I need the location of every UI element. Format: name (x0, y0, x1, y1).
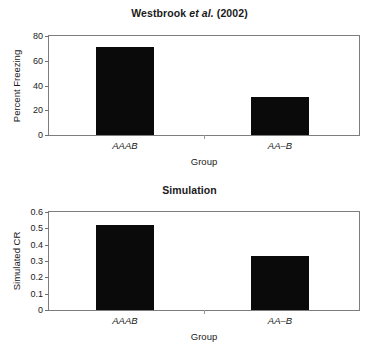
y-axis-tick-label: 0.1 (30, 289, 43, 298)
x-axis-center-tick (204, 310, 205, 314)
y-axis-tick (45, 310, 49, 311)
y-axis-tick-label: 20 (33, 106, 43, 115)
y-axis-tick-label: 0.2 (30, 273, 43, 282)
bar-aaab (96, 225, 153, 310)
panel-westbrook: Westbrook et al. (2002) Percent Freezing… (0, 0, 379, 176)
figure-container: Westbrook et al. (2002) Percent Freezing… (0, 0, 379, 353)
panel-title-simulation: Simulation (0, 184, 379, 197)
panel-title-etal: et al. (189, 7, 214, 19)
y-axis-tick-label: 0.6 (30, 208, 43, 217)
y-axis-tick (45, 228, 49, 229)
plot-area-westbrook: Percent Freezing Group 020406080AAABAA–B (48, 35, 360, 136)
y-axis-tick-label: 0 (38, 131, 43, 140)
y-axis-tick-label: 80 (33, 32, 43, 41)
y-axis-tick (45, 36, 49, 37)
bar-aaab (96, 47, 153, 135)
y-axis-tick-label: 40 (33, 81, 43, 90)
x-axis-title-westbrook: Group (49, 156, 359, 167)
y-axis-tick-label: 0.4 (30, 240, 43, 249)
panel-title-prefix: Westbrook (131, 7, 189, 19)
panel-simulation: Simulation Simulated CR Group 00.10.20.3… (0, 177, 379, 353)
y-axis-tick-label: 0 (38, 306, 43, 315)
y-axis-tick (45, 110, 49, 111)
x-axis-title-simulation: Group (49, 331, 359, 342)
bar-aab (251, 97, 308, 135)
y-axis-tick (45, 294, 49, 295)
bar-aab (251, 256, 308, 310)
plot-area-simulation: Simulated CR Group 00.10.20.30.40.50.6AA… (48, 211, 360, 311)
y-axis-tick-label: 0.3 (30, 257, 43, 266)
y-axis-title-simulation: Simulated CR (12, 216, 22, 306)
y-axis-tick (45, 245, 49, 246)
y-axis-title-westbrook: Percent Freezing (12, 41, 22, 131)
panel-title-suffix: (2002) (214, 7, 248, 19)
x-axis-center-tick (204, 135, 205, 139)
x-axis-category-label: AA–B (268, 315, 292, 326)
x-axis-category-label: AAAB (112, 140, 137, 151)
y-axis-tick (45, 61, 49, 62)
y-axis-tick-label: 60 (33, 56, 43, 65)
x-axis-category-label: AA–B (268, 140, 292, 151)
y-axis-tick (45, 212, 49, 213)
y-axis-tick (45, 261, 49, 262)
x-axis-category-label: AAAB (112, 315, 137, 326)
y-axis-tick-label: 0.5 (30, 224, 43, 233)
y-axis-tick (45, 86, 49, 87)
y-axis-tick (45, 277, 49, 278)
panel-title-westbrook: Westbrook et al. (2002) (0, 7, 379, 20)
y-axis-tick (45, 135, 49, 136)
